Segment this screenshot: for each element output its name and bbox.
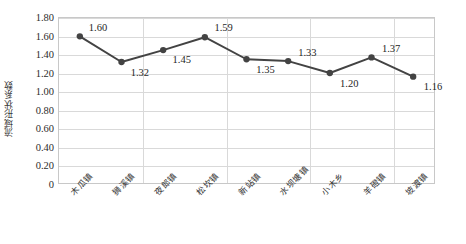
data-point-label: 1.37 [382, 42, 400, 53]
y-tick-label: 1.60 [20, 30, 54, 41]
data-point-label: 1.16 [424, 81, 442, 92]
y-tick-label: 1.20 [20, 67, 54, 78]
data-point-marker [77, 33, 83, 39]
data-point-marker [160, 47, 166, 53]
data-point-marker [327, 70, 333, 76]
y-tick-label: 1.80 [20, 12, 54, 23]
y-tick-label: 1.40 [20, 49, 54, 60]
y-tick-label: 0.80 [20, 104, 54, 115]
data-point-label: 1.33 [298, 46, 316, 57]
y-tick-label: 0.60 [20, 123, 54, 134]
data-point-marker [118, 59, 124, 65]
data-point-label: 1.59 [214, 22, 232, 33]
data-point-label: 1.45 [173, 54, 191, 65]
y-tick-label: 0.40 [20, 141, 54, 152]
line-chart: 流域形状系数 1.801.601.401.201.000.800.600.400… [0, 0, 466, 244]
data-point-marker [368, 54, 374, 60]
series-line [59, 18, 434, 183]
data-point-label: 1.32 [131, 66, 149, 77]
data-point-marker [202, 34, 208, 40]
data-point-label: 1.60 [89, 21, 107, 32]
y-tick-label: 1.00 [20, 86, 54, 97]
data-point-label: 1.20 [340, 77, 358, 88]
data-point-marker [243, 56, 249, 62]
y-tick-label: 0 [20, 179, 54, 190]
y-axis-title: 流域形状系数 [2, 48, 16, 170]
y-tick-label: 0.20 [20, 160, 54, 171]
plot-area [58, 17, 435, 184]
data-point-marker [285, 58, 291, 64]
data-point-label: 1.35 [256, 63, 274, 74]
data-point-marker [410, 74, 416, 80]
y-axis-tick-labels: 1.801.601.401.201.000.800.600.400.200 [18, 0, 54, 244]
